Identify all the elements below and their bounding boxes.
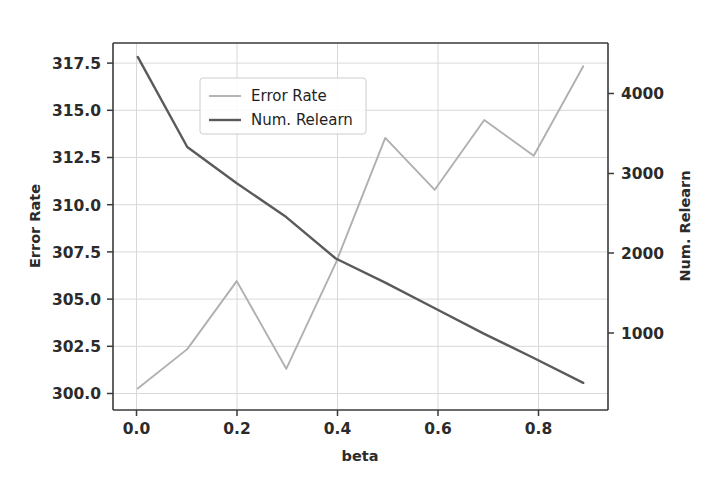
y-axis-left-title: Error Rate bbox=[27, 184, 43, 268]
ytick-label-left-0: 300.0 bbox=[52, 385, 101, 403]
ytick-label-left-6: 315.0 bbox=[52, 102, 101, 120]
y-axis-right-title: Num. Relearn bbox=[677, 170, 693, 281]
xtick-label-3: 0.6 bbox=[424, 420, 451, 438]
legend-label-error-rate: Error Rate bbox=[251, 87, 327, 105]
figure-canvas: 300.0 302.5 305.0 307.5 310.0 312.5 315.… bbox=[0, 0, 714, 483]
chart-svg: 300.0 302.5 305.0 307.5 310.0 312.5 315.… bbox=[0, 0, 714, 483]
xtick-label-1: 0.2 bbox=[223, 420, 250, 438]
legend[interactable]: Error Rate Num. Relearn bbox=[200, 78, 366, 134]
ytick-label-left-3: 307.5 bbox=[52, 244, 101, 262]
ytick-label-left-7: 317.5 bbox=[52, 55, 101, 73]
ytick-label-right-2: 3000 bbox=[621, 165, 664, 183]
legend-label-num-relearn: Num. Relearn bbox=[251, 111, 353, 129]
ytick-label-left-1: 302.5 bbox=[52, 338, 101, 356]
ytick-label-right-3: 4000 bbox=[621, 85, 664, 103]
xtick-label-2: 0.4 bbox=[324, 420, 352, 438]
x-axis-title: beta bbox=[342, 448, 379, 464]
xtick-label-0: 0.0 bbox=[123, 420, 151, 438]
xtick-label-4: 0.8 bbox=[525, 420, 552, 438]
ytick-label-right-1: 2000 bbox=[621, 245, 664, 263]
ytick-label-left-2: 305.0 bbox=[52, 291, 101, 309]
ytick-label-left-4: 310.0 bbox=[52, 197, 101, 215]
ytick-label-right-0: 1000 bbox=[621, 325, 664, 343]
ytick-label-left-5: 312.5 bbox=[52, 149, 101, 167]
